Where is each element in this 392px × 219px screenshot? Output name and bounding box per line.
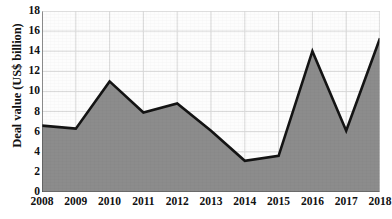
- plot-area: [42, 11, 380, 192]
- chart-svg: [42, 11, 380, 192]
- x-tick-label: 2013: [200, 196, 223, 208]
- y-tick-label: 10: [29, 86, 41, 98]
- y-tick-label: 8: [34, 106, 40, 118]
- x-tick-label: 2008: [31, 196, 54, 208]
- y-axis-tick-labels: 024681012141618: [18, 11, 40, 192]
- x-tick-label: 2012: [166, 196, 189, 208]
- x-tick-label: 2018: [369, 196, 392, 208]
- x-tick-label: 2015: [267, 196, 290, 208]
- y-tick-label: 12: [29, 66, 41, 78]
- y-tick-label: 4: [34, 146, 40, 158]
- y-tick-label: 16: [29, 25, 41, 37]
- x-tick-label: 2011: [132, 196, 154, 208]
- y-tick-label: 18: [29, 5, 41, 17]
- x-tick-label: 2009: [64, 196, 87, 208]
- x-tick-label: 2016: [301, 196, 324, 208]
- x-tick-label: 2017: [335, 196, 358, 208]
- x-axis-tick-labels: 2008200920102011201220132014201520162017…: [42, 196, 380, 216]
- y-tick-label: 6: [34, 126, 40, 138]
- x-tick-label: 2014: [233, 196, 256, 208]
- x-tick-label: 2010: [98, 196, 121, 208]
- y-tick-label: 14: [29, 45, 41, 57]
- y-tick-label: 2: [34, 166, 40, 178]
